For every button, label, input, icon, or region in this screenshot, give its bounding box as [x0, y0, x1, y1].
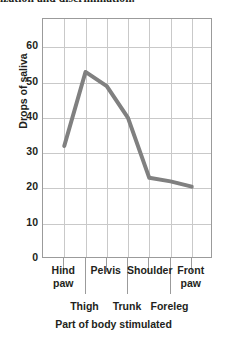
x-axis-category-label: Shoulder: [127, 264, 170, 277]
y-axis-tick-label: 50: [12, 76, 38, 87]
x-axis-category-label: Hind paw: [42, 264, 85, 289]
x-axis-category-label: Foreleg: [148, 300, 191, 313]
y-axis-tick-label: 40: [12, 111, 38, 122]
plot-area: [42, 18, 212, 258]
x-axis-category-label: Front paw: [170, 264, 213, 289]
y-axis-tick-label: 0: [12, 252, 38, 263]
x-axis-title: Part of body stimulated: [0, 318, 227, 330]
cut-off-header-text: ization and discrimination.: [0, 0, 227, 4]
y-axis-tick-label: 30: [12, 146, 38, 157]
chart-page: ization and discrimination. Drops of sal…: [0, 0, 227, 339]
x-axis-category-label: Thigh: [63, 300, 106, 313]
x-axis-category-label: Trunk: [106, 300, 149, 313]
data-line-series: [43, 19, 213, 259]
y-axis-tick-label: 20: [12, 181, 38, 192]
y-axis-tick-label: 10: [12, 217, 38, 228]
y-axis-tick-label: 60: [12, 40, 38, 51]
x-axis-category-label: Pelvis: [85, 264, 128, 277]
